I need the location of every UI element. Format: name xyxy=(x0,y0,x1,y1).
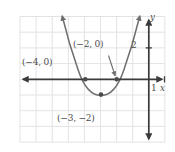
y-axis-label: y xyxy=(150,12,155,22)
x-axis-tick-label: 1 xyxy=(151,83,157,93)
label-x-intercept-right: (−2, 0) xyxy=(73,39,103,49)
y-axis-tick-label: 2 xyxy=(131,40,137,50)
graph-figure: (−4, 0) (−2, 0) (−3, −2) 2 1 y x xyxy=(0,0,175,152)
label-x-intercept-left: (−4, 0) xyxy=(22,57,52,67)
coordinate-plane xyxy=(0,0,175,152)
point-vertex xyxy=(99,92,104,97)
x-axis-label: x xyxy=(160,83,165,93)
point-x-intercept-right xyxy=(114,77,119,82)
label-vertex: (−3, −2) xyxy=(57,113,95,123)
point-x-intercept-left xyxy=(83,77,88,82)
